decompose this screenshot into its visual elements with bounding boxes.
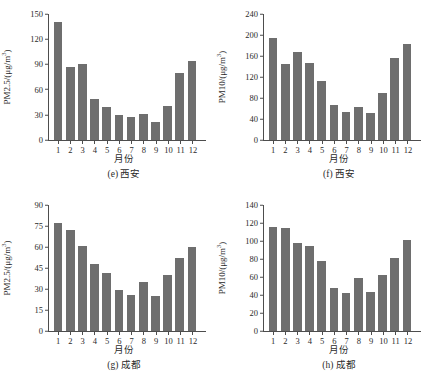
y-axis-tick-label: 75	[35, 222, 46, 231]
y-axis-tick: 60	[35, 85, 49, 94]
x-axis-tick: 11	[390, 332, 402, 346]
panel-caption: (h) 成都	[263, 361, 415, 371]
x-axis-tick-label: 2	[283, 146, 287, 155]
bar	[378, 93, 387, 140]
y-axis-tick-label: 100	[245, 237, 260, 246]
x-axis-tick-label: 8	[142, 146, 146, 155]
y-axis-tick-mark	[260, 56, 263, 57]
x-axis-tick: 10	[377, 332, 389, 346]
y-axis-tick: 20	[250, 309, 264, 318]
bar	[342, 112, 351, 140]
y-axis-tick-mark	[260, 77, 263, 78]
x-axis-tick: 8	[138, 141, 150, 155]
bar-slot	[76, 205, 88, 331]
x-axis-tick: 11	[175, 141, 187, 155]
x-axis-tick: 7	[126, 141, 138, 155]
bar	[54, 223, 63, 331]
bar-slot	[279, 14, 291, 140]
y-axis-tick-label: 60	[35, 85, 46, 94]
x-axis-tick: 1	[52, 332, 64, 346]
y-axis-tick-mark	[260, 331, 263, 332]
bar	[102, 107, 111, 140]
bar-slot	[149, 205, 161, 331]
x-axis-tick-label: 2	[68, 146, 72, 155]
bar-slot	[340, 205, 352, 331]
y-axis-tick-mark	[45, 89, 48, 90]
x-axis-tick-mark	[107, 332, 108, 335]
bar-slot	[186, 205, 198, 331]
y-axis-tick-mark	[260, 259, 263, 260]
x-axis-tick-mark	[371, 141, 372, 144]
y-axis-tick: 0	[39, 136, 48, 145]
y-axis-tick: 30	[35, 111, 49, 120]
bar	[175, 73, 184, 140]
bar	[163, 106, 172, 140]
bar	[317, 261, 326, 331]
chart-panel-g: PM2.5/(μg/m3) 0153045607590 123456789101…	[0, 191, 215, 382]
y-axis-tick-mark	[260, 205, 263, 206]
y-axis-tick-label: 160	[245, 52, 260, 61]
bar	[281, 64, 290, 140]
x-axis-tick-label: 1	[56, 337, 60, 346]
x-axis-tick: 8	[353, 141, 365, 155]
x-axis-tick: 8	[138, 332, 150, 346]
y-axis-tick-mark	[260, 295, 263, 296]
y-axis-tick: 30	[35, 285, 49, 294]
bar	[163, 275, 172, 331]
y-axis-tick-mark	[45, 64, 48, 65]
x-axis-tick: 10	[162, 332, 174, 346]
x-axis-tick-mark	[309, 332, 310, 335]
y-axis-tick: 120	[245, 219, 263, 228]
bar-slot	[328, 14, 340, 140]
bar	[305, 246, 314, 331]
x-axis-tick: 6	[328, 332, 340, 346]
x-axis-tick: 7	[341, 141, 353, 155]
y-axis-tick-label: 30	[35, 111, 46, 120]
x-axis-tick: 7	[341, 332, 353, 346]
x-axis-tick: 6	[328, 141, 340, 155]
y-axis-tick-label: 240	[245, 10, 260, 19]
x-axis-tick-mark	[395, 332, 396, 335]
x-axis-tick-mark	[168, 332, 169, 335]
bar	[115, 115, 124, 140]
y-axis-tick: 40	[250, 115, 264, 124]
y-axis-tick-label: 120	[30, 35, 45, 44]
bar-slot	[340, 14, 352, 140]
bar	[330, 288, 339, 331]
y-axis-tick: 75	[35, 222, 49, 231]
y-axis-tick-label: 120	[245, 73, 260, 82]
bar-slot	[352, 205, 364, 331]
y-axis-tick-label: 140	[245, 201, 260, 210]
x-axis-title: 月份	[263, 346, 415, 356]
x-axis-tick-mark	[192, 141, 193, 144]
bar	[354, 107, 363, 140]
x-axis-tick-mark	[119, 141, 120, 144]
y-axis-tick: 140	[245, 201, 263, 210]
x-axis-tick-label: 8	[142, 337, 146, 346]
y-axis-tick-label: 200	[245, 31, 260, 40]
y-axis-tick-mark	[45, 114, 48, 115]
x-axis-tick-label: 10	[164, 146, 173, 155]
bar-slot	[186, 14, 198, 140]
x-axis-tick-mark	[192, 332, 193, 335]
y-axis-tick-mark	[260, 313, 263, 314]
y-axis-tick-label: 40	[250, 115, 261, 124]
x-axis-tick: 1	[267, 332, 279, 346]
y-axis-tick-label: 45	[35, 264, 46, 273]
y-axis-tick-label: 80	[250, 255, 261, 264]
bar-slot	[401, 205, 413, 331]
x-axis-tick-label: 9	[369, 146, 373, 155]
x-axis-tick-label: 8	[357, 146, 361, 155]
x-axis-tick: 1	[52, 141, 64, 155]
y-axis-tick: 0	[254, 327, 263, 336]
y-axis-tick-mark	[45, 289, 48, 290]
x-axis-tick-label: 11	[177, 337, 185, 346]
x-axis-tick: 10	[377, 141, 389, 155]
x-axis-tick-label: 10	[164, 337, 173, 346]
y-axis-unit-exponent: 3	[215, 245, 222, 248]
x-axis-tick-mark	[70, 141, 71, 144]
x-axis-tick-label: 1	[271, 337, 275, 346]
y-axis-tick: 120	[30, 35, 48, 44]
bar	[366, 113, 375, 140]
bar	[139, 282, 148, 331]
